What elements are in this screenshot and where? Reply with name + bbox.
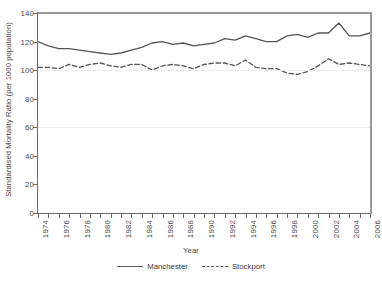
series-lines — [38, 13, 370, 213]
x-tick-mark-1979 — [90, 214, 91, 218]
x-tick-mark-1998 — [287, 214, 288, 218]
x-tick-mark-1993 — [235, 214, 236, 218]
x-tick-mark-2002 — [329, 214, 330, 218]
x-tick-mark-1980 — [100, 214, 101, 218]
x-tick-mark-1975 — [48, 214, 49, 218]
x-tick-mark-1984 — [142, 214, 143, 218]
x-tick-mark-1994 — [246, 214, 247, 218]
y-tick-mark-100 — [33, 70, 37, 71]
x-tick-label-2006: 2006 — [373, 220, 382, 238]
y-tick-label-40: 40 — [14, 151, 34, 160]
x-tick-mark-2001 — [318, 214, 319, 218]
x-tick-mark-2006 — [370, 214, 371, 218]
x-tick-mark-1991 — [214, 214, 215, 218]
plot-area — [38, 13, 370, 213]
chart-legend: Manchester Stockport — [0, 262, 382, 271]
gridline-60 — [38, 127, 370, 128]
x-tick-mark-1978 — [80, 214, 81, 218]
x-tick-label-1990: 1990 — [207, 220, 216, 238]
x-tick-mark-1990 — [204, 214, 205, 218]
legend-item-manchester: Manchester — [117, 262, 188, 271]
legend-item-stockport: Stockport — [202, 262, 265, 271]
x-tick-mark-2003 — [339, 214, 340, 218]
x-tick-label-1986: 1986 — [166, 220, 175, 238]
x-tick-mark-1977 — [69, 214, 70, 218]
x-tick-label-1998: 1998 — [290, 220, 299, 238]
y-axis-tick-labels: 020406080100120140 — [12, 0, 34, 283]
x-tick-mark-2000 — [308, 214, 309, 218]
y-tick-label-20: 20 — [14, 180, 34, 189]
x-tick-mark-1986 — [163, 214, 164, 218]
x-tick-label-2000: 2000 — [311, 220, 320, 238]
x-tick-mark-2005 — [360, 214, 361, 218]
series-line-manchester — [38, 23, 370, 54]
x-tick-label-1980: 1980 — [103, 220, 112, 238]
x-axis-title-text: Year — [183, 246, 199, 255]
y-tick-label-100: 100 — [14, 66, 34, 75]
x-tick-mark-1983 — [131, 214, 132, 218]
x-tick-mark-1997 — [277, 214, 278, 218]
x-tick-mark-1987 — [173, 214, 174, 218]
x-tick-mark-1996 — [266, 214, 267, 218]
y-tick-mark-60 — [33, 127, 37, 128]
y-tick-label-0: 0 — [14, 209, 34, 218]
legend-swatch-solid — [117, 266, 143, 267]
x-tick-label-2004: 2004 — [352, 220, 361, 238]
x-tick-mark-1985 — [152, 214, 153, 218]
x-tick-label-1988: 1988 — [186, 220, 195, 238]
y-tick-label-120: 120 — [14, 37, 34, 46]
x-tick-label-1992: 1992 — [228, 220, 237, 238]
x-tick-label-1994: 1994 — [249, 220, 258, 238]
x-tick-mark-1981 — [111, 214, 112, 218]
x-tick-mark-1974 — [38, 214, 39, 218]
gridline-100 — [38, 70, 370, 71]
x-tick-label-1976: 1976 — [62, 220, 71, 238]
x-tick-mark-2004 — [349, 214, 350, 218]
series-line-stockport — [38, 59, 370, 75]
x-tick-mark-1992 — [225, 214, 226, 218]
y-tick-mark-140 — [33, 13, 37, 14]
legend-label-stockport: Stockport — [232, 262, 265, 271]
y-tick-label-60: 60 — [14, 123, 34, 132]
y-tick-mark-0 — [33, 213, 37, 214]
y-tick-mark-80 — [33, 99, 37, 100]
y-tick-label-140: 140 — [14, 9, 34, 18]
x-tick-label-1978: 1978 — [83, 220, 92, 238]
x-tick-label-1982: 1982 — [124, 220, 133, 238]
x-tick-label-1984: 1984 — [145, 220, 154, 238]
y-tick-label-80: 80 — [14, 94, 34, 103]
x-tick-label-1996: 1996 — [269, 220, 278, 238]
legend-label-manchester: Manchester — [147, 262, 188, 271]
x-tick-mark-1982 — [121, 214, 122, 218]
chart-figure: Standardised Mortality Ratio (per 1000 p… — [0, 0, 382, 283]
x-tick-label-2002: 2002 — [332, 220, 341, 238]
x-axis-title: Year — [0, 246, 382, 255]
plot-border-right — [370, 12, 372, 214]
legend-swatch-dashed — [202, 266, 228, 267]
x-tick-mark-1976 — [59, 214, 60, 218]
x-tick-mark-1988 — [183, 214, 184, 218]
y-tick-mark-40 — [33, 156, 37, 157]
x-tick-mark-1999 — [297, 214, 298, 218]
y-tick-mark-120 — [33, 42, 37, 43]
x-tick-mark-1995 — [256, 214, 257, 218]
y-tick-mark-20 — [33, 184, 37, 185]
x-tick-mark-1989 — [194, 214, 195, 218]
x-tick-label-1974: 1974 — [41, 220, 50, 238]
